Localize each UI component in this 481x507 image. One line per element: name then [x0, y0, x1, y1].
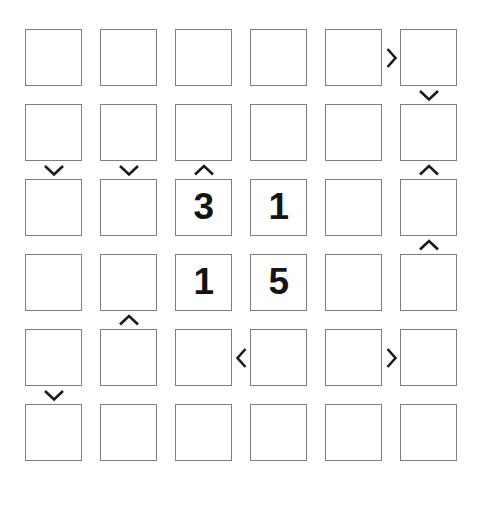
- puzzle-board: 3115: [0, 0, 481, 507]
- chevron-up-icon: [417, 162, 441, 178]
- greater-than-icon: [382, 347, 400, 369]
- chevron-down-icon: [42, 162, 66, 178]
- chevron-up-icon: [192, 162, 216, 178]
- chevron-up-icon: [117, 312, 141, 328]
- chevron-up-icon: [417, 237, 441, 253]
- constraint-layer: [0, 0, 481, 507]
- chevron-down-icon: [42, 387, 66, 403]
- chevron-down-icon: [417, 87, 441, 103]
- less-than-icon: [232, 347, 250, 369]
- chevron-down-icon: [117, 162, 141, 178]
- greater-than-icon: [382, 47, 400, 69]
